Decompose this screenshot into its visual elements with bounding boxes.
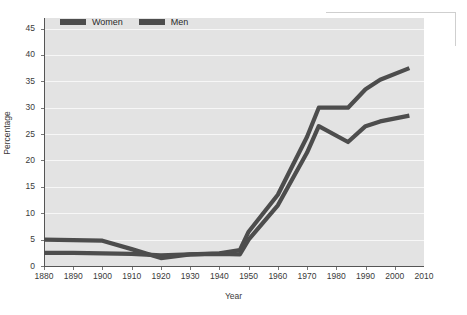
y-axis-title: Percentage xyxy=(2,93,12,173)
legend-item-women[interactable]: Women xyxy=(60,17,123,27)
legend-swatch-men-icon xyxy=(139,19,165,25)
chart-legend: Women Men xyxy=(60,17,188,27)
legend-swatch-women-icon xyxy=(60,19,86,25)
series-lines-layer xyxy=(0,0,467,315)
legend-label-men: Men xyxy=(171,17,189,27)
series-line-women xyxy=(44,68,409,258)
series-line-men xyxy=(44,116,409,256)
x-axis-title: Year xyxy=(0,291,467,301)
legend-item-men[interactable]: Men xyxy=(139,17,189,27)
legend-label-women: Women xyxy=(92,17,123,27)
line-chart-figure: 0510152025303540451880189019001910192019… xyxy=(0,0,467,315)
